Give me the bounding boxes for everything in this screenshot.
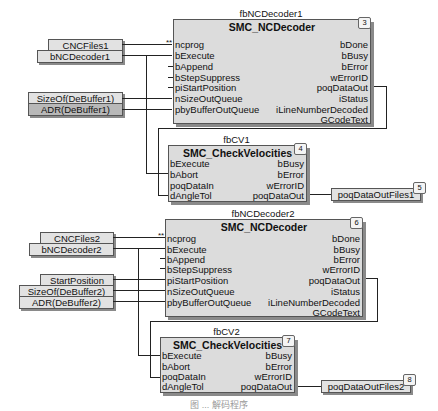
pin-bdone[interactable]: bDone <box>340 39 368 50</box>
block-number: 3 <box>358 17 371 29</box>
block-instance-name: fbNCDecoder2 <box>165 208 361 219</box>
pin-babort[interactable]: bAbort <box>170 169 198 180</box>
pin-bbusy[interactable]: bBusy <box>342 50 368 61</box>
pin-bexecute[interactable]: bExecute <box>162 350 202 361</box>
pin-berror[interactable]: bError <box>278 169 304 180</box>
pin-ncprog[interactable]: ncprog <box>167 233 196 244</box>
pin-nsizeoutqueue[interactable]: nSizeOutQueue <box>167 286 235 297</box>
wire <box>138 248 139 355</box>
negation-marker: ** <box>166 38 172 47</box>
var-bncdecoder2[interactable]: bNCDecoder2 <box>29 243 114 256</box>
block-number: 4 <box>294 143 307 155</box>
pin-bstepsuppress[interactable]: bStepSuppress <box>167 264 232 275</box>
block-number: 7 <box>282 335 295 347</box>
block-number: 6 <box>350 217 363 229</box>
var-bncdecoder1[interactable]: bNCDecoder1 <box>37 50 123 63</box>
pin-pbybufferoutqueue[interactable]: pbyBufferOutQueue <box>167 297 251 308</box>
figure-caption: 图 ... 解码程序 <box>0 398 438 411</box>
wire <box>150 321 378 322</box>
block-instance-name: fbNCDecoder1 <box>173 8 369 19</box>
wire <box>293 386 321 387</box>
pin-poqdataout[interactable]: poqDataOut <box>253 190 304 201</box>
block-type: SMC_NCDecoder <box>166 221 362 233</box>
wire <box>377 278 378 321</box>
block-type: SMC_NCDecoder <box>174 21 370 33</box>
block-number: 5 <box>413 182 426 194</box>
wire <box>150 321 151 377</box>
pin-nsizeoutqueue[interactable]: nSizeOutQueue <box>175 93 243 104</box>
pin-ncprog[interactable]: ncprog <box>175 39 204 50</box>
pin-werrorid[interactable]: wErrorID <box>323 264 360 275</box>
pin-bbusy[interactable]: bBusy <box>266 350 292 361</box>
wire <box>122 55 172 56</box>
wire <box>361 278 377 279</box>
block-instance-name: fbCV1 <box>168 134 305 145</box>
block-number: 8 <box>403 374 416 386</box>
function-block-cv1[interactable]: SMC_CheckVelocities 4 bExecute bAbort po… <box>168 145 307 202</box>
negation-marker: ** <box>158 231 164 240</box>
wire <box>158 128 159 195</box>
var-adr-debuffer1[interactable]: ADR(DeBuffer1) <box>28 103 123 116</box>
pin-poqdataout[interactable]: poqDataOut <box>317 82 368 93</box>
wire <box>305 194 331 195</box>
pin-pistartposition[interactable]: piStartPosition <box>167 275 228 286</box>
pin-poqdataout[interactable]: poqDataOut <box>241 381 292 392</box>
var-poqdataoutfiles1[interactable]: poqDataOutFiles1 <box>331 188 421 201</box>
wire <box>113 248 165 249</box>
wire <box>386 86 387 128</box>
wire <box>113 301 165 302</box>
pin-poqdataout[interactable]: poqDataOut <box>309 275 360 286</box>
function-block-cv2[interactable]: SMC_CheckVelocities 7 bExecute bAbort po… <box>160 337 295 393</box>
pin-istatus[interactable]: iStatus <box>331 286 360 297</box>
wire <box>370 86 386 87</box>
pin-bbusy[interactable]: bBusy <box>278 158 304 169</box>
wire <box>146 55 147 173</box>
pin-bdone[interactable]: bDone <box>332 233 360 244</box>
pin-berror[interactable]: bError <box>342 61 368 72</box>
pin-pistartposition[interactable]: piStartPosition <box>175 82 236 93</box>
wire <box>158 195 168 196</box>
block-instance-name: fbCV2 <box>160 326 293 337</box>
wire <box>122 109 172 110</box>
wire <box>122 98 172 99</box>
wire <box>122 44 172 45</box>
pin-dangletol[interactable]: dAngleTol <box>162 381 204 392</box>
wire <box>113 290 165 291</box>
pin-gcodetext[interactable]: GCodeText <box>320 114 368 125</box>
wire <box>113 279 165 280</box>
pin-istatus[interactable]: iStatus <box>339 93 368 104</box>
pin-dangletol[interactable]: dAngleTol <box>170 190 212 201</box>
pin-bexecute[interactable]: bExecute <box>175 50 215 61</box>
wire <box>158 128 387 129</box>
pin-bappend[interactable]: bAppend <box>175 61 213 72</box>
pin-pbybufferoutqueue[interactable]: pbyBufferOutQueue <box>175 104 259 115</box>
pin-gcodetext[interactable]: GCodeText <box>312 307 360 318</box>
pin-bexecute[interactable]: bExecute <box>170 158 210 169</box>
wire <box>146 173 168 174</box>
function-block-ncdecoder1[interactable]: SMC_NCDecoder 3 ncprog bExecute bAppend … <box>173 19 371 124</box>
var-adr-debuffer2[interactable]: ADR(DeBuffer2) <box>19 296 114 309</box>
function-block-ncdecoder2[interactable]: SMC_NCDecoder 6 ncprog bExecute bAppend … <box>165 219 363 317</box>
var-poqdataoutfiles2[interactable]: poqDataOutFiles2 <box>321 380 411 393</box>
